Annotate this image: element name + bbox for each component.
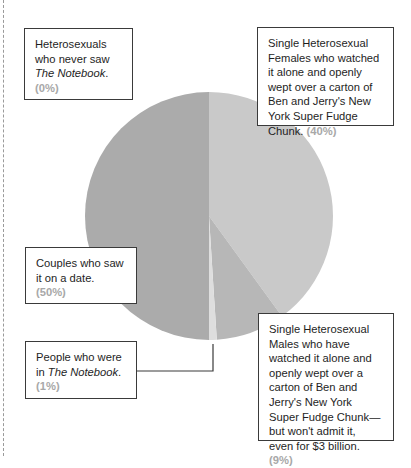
leader-line-cast	[136, 344, 213, 371]
percent-value: (50%)	[36, 286, 66, 298]
label-text: Single Heterosexual Females who watched …	[268, 37, 379, 137]
label-females: Single Heterosexual Females who watched …	[257, 27, 394, 126]
label-males: Single Heterosexual Males who have watch…	[258, 313, 394, 441]
label-couples: Couples who saw it on a date. (50%)	[25, 247, 137, 304]
percent-value: (0%)	[35, 82, 59, 94]
label-text: Heterosexuals who never saw	[35, 38, 110, 65]
label-never-saw: Heterosexuals who never saw The Notebook…	[24, 28, 133, 100]
label-tail: .	[118, 366, 121, 378]
label-tail: .	[105, 67, 108, 79]
label-italic: The Notebook	[35, 67, 105, 79]
label-italic: The Notebook	[48, 366, 118, 378]
label-text: Single Heterosexual Males who have watch…	[269, 323, 380, 452]
label-text: Couples who saw it on a date.	[36, 257, 124, 284]
percent-value: (1%)	[36, 380, 60, 392]
percent-value: (40%)	[307, 125, 337, 137]
label-cast: People who were in The Notebook. (1%)	[25, 341, 137, 399]
percent-value: (9%)	[269, 454, 293, 466]
